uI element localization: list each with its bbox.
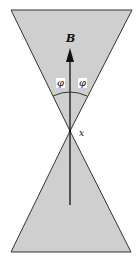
- angle-label-left: φ: [56, 78, 65, 88]
- angle-label-right: φ: [78, 78, 87, 88]
- apex-label: x: [79, 129, 84, 138]
- upper-cone: [11, 10, 132, 131]
- double-cone-diagram: B φ φ x: [0, 0, 139, 260]
- lower-cone: [11, 131, 131, 252]
- apex-point: [69, 130, 71, 132]
- vector-label: B: [66, 33, 75, 44]
